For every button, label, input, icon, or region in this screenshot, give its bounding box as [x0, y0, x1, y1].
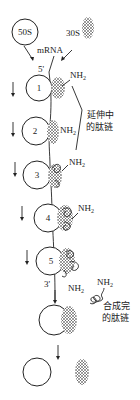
svg-text:4: 4: [46, 213, 51, 223]
label-5prime: 5': [38, 64, 45, 74]
nh2-4: NH2: [78, 203, 94, 214]
ribosome-3: 3: [23, 161, 62, 189]
label-mrna: mRNA: [37, 45, 64, 55]
ribosome-4: 4: [34, 204, 73, 232]
elongating-bracket: [72, 86, 82, 150]
ribosome-terminated: [39, 305, 77, 335]
ribosome-2: 2: [22, 117, 59, 145]
nh2-2: NH2: [60, 125, 76, 136]
nh2-3: NH2: [69, 157, 85, 168]
nh2-5: NH2: [68, 283, 84, 294]
label-50s: 50S: [18, 27, 32, 37]
svg-text:2: 2: [33, 126, 38, 136]
ribosome-1: 1: [26, 75, 65, 101]
nh2-1: NH2: [70, 70, 86, 81]
small-subunit-30s: 30S: [66, 17, 94, 39]
label-elongating-1: 延伸中: [87, 109, 114, 120]
large-subunit-50s: 50S: [12, 19, 38, 45]
svg-text:3: 3: [35, 170, 40, 180]
translation-diagram: 50S 30S mRNA 5' 1 NH2 2 NH2 延伸中 的肽链: [0, 0, 140, 400]
label-3prime: 3': [44, 279, 51, 289]
label-30s: 30S: [66, 28, 80, 38]
label-elongating-2: 的肽链: [86, 121, 113, 132]
svg-text:5: 5: [49, 256, 54, 266]
nh2-completed: NH2: [97, 277, 113, 288]
label-completed-1: 合成完: [103, 300, 130, 311]
svg-text:1: 1: [37, 83, 42, 93]
ribosome-5: 5: [36, 247, 78, 277]
completed-chain: [90, 288, 104, 304]
label-completed-2: 的肽链: [102, 312, 129, 323]
dissociated-subunits: [23, 358, 89, 386]
